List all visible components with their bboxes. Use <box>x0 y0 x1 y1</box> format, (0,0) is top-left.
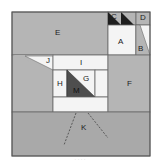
label-j: J <box>46 57 50 65</box>
label-m: M <box>73 87 80 95</box>
label-c: C <box>111 13 117 21</box>
white-strip-bottom <box>53 97 108 112</box>
label-e: E <box>55 29 60 37</box>
label-d: D <box>140 14 146 22</box>
label-h: H <box>57 80 63 88</box>
label-k: K <box>81 124 86 132</box>
white-strip-right <box>95 70 108 97</box>
label-a: A <box>118 38 123 46</box>
label-g: G <box>83 75 89 83</box>
caption: · · · · <box>60 156 100 162</box>
piece-k <box>12 112 150 156</box>
label-b: B <box>138 45 143 53</box>
label-i: I <box>80 59 82 67</box>
label-f: F <box>127 80 132 88</box>
puzzle-shapes <box>0 0 157 165</box>
